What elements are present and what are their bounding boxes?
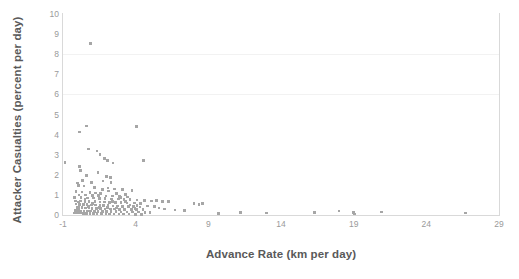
data-point bbox=[106, 159, 109, 162]
data-point bbox=[92, 197, 95, 200]
data-point bbox=[87, 205, 90, 208]
data-point bbox=[124, 200, 127, 203]
y-tick-label: 8 bbox=[37, 50, 59, 59]
data-point bbox=[88, 200, 91, 203]
data-point bbox=[82, 203, 85, 206]
data-point bbox=[99, 201, 102, 204]
data-point bbox=[198, 203, 201, 206]
data-point bbox=[115, 207, 118, 210]
data-point bbox=[134, 213, 137, 216]
data-point bbox=[85, 174, 88, 177]
data-point bbox=[101, 188, 104, 191]
y-tick-label: 5 bbox=[37, 110, 59, 119]
data-point bbox=[146, 205, 149, 208]
x-tick-label: 29 bbox=[484, 220, 514, 229]
y-tick-label: 6 bbox=[37, 90, 59, 99]
data-point bbox=[193, 202, 196, 205]
data-point bbox=[94, 204, 97, 207]
data-point bbox=[128, 213, 131, 216]
x-tick-label: -1 bbox=[48, 220, 78, 229]
data-point bbox=[129, 198, 132, 201]
data-point bbox=[85, 125, 88, 128]
data-point bbox=[81, 191, 84, 194]
data-point bbox=[104, 197, 107, 200]
data-point bbox=[338, 210, 341, 213]
y-tick-label: 4 bbox=[37, 130, 59, 139]
x-axis-tick-labels: -14914192429 bbox=[63, 220, 499, 234]
data-point bbox=[73, 196, 76, 199]
y-tick-label: 9 bbox=[37, 30, 59, 39]
data-point bbox=[120, 201, 123, 204]
x-tick-label: 9 bbox=[193, 220, 223, 229]
scatter-chart: Attacker Casualties (percent per day) Ad… bbox=[0, 0, 519, 279]
data-point bbox=[98, 197, 101, 200]
data-point bbox=[81, 206, 84, 209]
data-point bbox=[102, 180, 105, 183]
data-point bbox=[79, 169, 82, 172]
data-point bbox=[140, 213, 143, 216]
data-point bbox=[90, 181, 93, 184]
data-point bbox=[464, 212, 467, 215]
data-point bbox=[313, 211, 316, 214]
data-point bbox=[92, 212, 95, 215]
data-point bbox=[91, 202, 94, 205]
data-point bbox=[78, 165, 81, 168]
data-point bbox=[217, 212, 220, 215]
data-point bbox=[136, 204, 139, 207]
data-point bbox=[155, 199, 158, 202]
data-point bbox=[153, 205, 156, 208]
data-point bbox=[81, 179, 84, 182]
data-point bbox=[121, 188, 124, 191]
y-tick-label: 2 bbox=[37, 171, 59, 180]
data-point bbox=[265, 212, 268, 215]
gridline bbox=[63, 94, 499, 95]
data-point bbox=[110, 181, 113, 184]
data-point bbox=[75, 190, 78, 193]
data-point bbox=[201, 202, 204, 205]
data-point bbox=[93, 186, 96, 189]
gridline bbox=[63, 54, 499, 55]
data-point bbox=[107, 190, 110, 193]
x-tick-label: 19 bbox=[339, 220, 369, 229]
data-point bbox=[380, 211, 383, 214]
data-point bbox=[86, 197, 89, 200]
data-point bbox=[109, 176, 112, 179]
data-point bbox=[144, 211, 147, 214]
x-tick-label: 14 bbox=[266, 220, 296, 229]
data-point bbox=[96, 212, 99, 215]
data-point bbox=[134, 207, 137, 210]
data-point bbox=[129, 204, 132, 207]
data-point bbox=[112, 162, 115, 165]
data-point bbox=[108, 213, 111, 216]
data-point bbox=[142, 159, 145, 162]
y-tick-label: 0 bbox=[37, 211, 59, 220]
y-axis-tick-labels: 012345678910 bbox=[33, 14, 59, 215]
data-point bbox=[139, 202, 142, 205]
data-point bbox=[97, 171, 100, 174]
data-point bbox=[112, 205, 115, 208]
data-point bbox=[150, 200, 153, 203]
data-point bbox=[114, 201, 117, 204]
data-point bbox=[89, 42, 92, 45]
data-point bbox=[136, 199, 139, 202]
data-point bbox=[106, 206, 109, 209]
data-point bbox=[239, 211, 242, 214]
data-point bbox=[64, 161, 67, 164]
data-point bbox=[163, 208, 166, 211]
data-point bbox=[78, 131, 81, 134]
data-point bbox=[113, 188, 116, 191]
data-point bbox=[77, 184, 80, 187]
data-point bbox=[105, 175, 108, 178]
data-point bbox=[87, 148, 90, 151]
data-point bbox=[158, 207, 161, 210]
data-point bbox=[98, 206, 101, 209]
y-tick-label: 10 bbox=[37, 10, 59, 19]
data-point bbox=[143, 199, 146, 202]
x-tick-label: 4 bbox=[121, 220, 151, 229]
x-axis-title: Advance Rate (km per day) bbox=[63, 248, 499, 260]
data-point bbox=[78, 203, 81, 206]
data-point bbox=[122, 213, 125, 216]
data-point bbox=[131, 189, 134, 192]
data-point bbox=[135, 125, 138, 128]
data-point bbox=[113, 213, 116, 216]
